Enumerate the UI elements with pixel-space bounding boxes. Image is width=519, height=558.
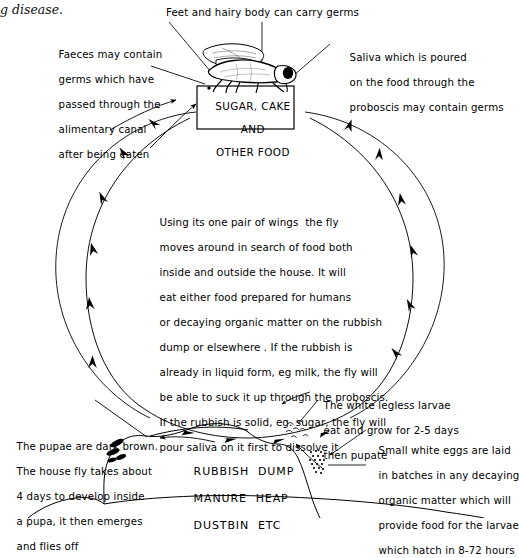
eggs-label-line-4: provide food for the larvae	[379, 520, 519, 531]
eggs-label: Small white eggs are laid in batches in …	[365, 432, 519, 558]
faeces-label-line-2: germs which have	[59, 74, 155, 85]
saliva-label-line-3: proboscis may contain germs	[350, 102, 504, 113]
saliva-label-line-2: on the food through the	[350, 77, 475, 88]
pupae-label-line-4: a pupa, it then emerges	[17, 516, 143, 527]
faeces-label-line-5: after being eaten	[59, 149, 150, 160]
eggs-label-line-5: which hatch in 8-72 hours	[379, 545, 515, 556]
feet-and-body-label: Feet and hairy body can carry germs	[166, 7, 359, 20]
pupae-label-line-3: 4 days to develop inside	[17, 491, 145, 502]
paragraph-line-5: or decaying organic matter on the rubbis…	[160, 316, 383, 328]
food-box-text: SUGAR, CAKE AND OTHER FOOD	[199, 89, 292, 170]
pupae-label: The pupae are dark brown. The house fly …	[3, 428, 158, 558]
paragraph-line-1: Using its one pair of wings the fly	[160, 216, 339, 228]
paragraph-line-4: eat either food prepared for humans	[160, 291, 352, 303]
eggs-label-line-3: organic matter which will	[379, 495, 511, 506]
saliva-label-line-1: Saliva which is poured	[350, 52, 467, 63]
rubbish-dump-line-3: DUSTBIN ETC	[194, 519, 282, 532]
callout-leader-lines	[151, 22, 330, 84]
pupae-label-line-1: The pupae are dark brown.	[17, 441, 159, 452]
food-box-line-2: AND	[241, 123, 265, 135]
rubbish-dump-line-2: MANURE HEAP	[194, 492, 289, 505]
pupae-label-line-5: and flies off	[17, 541, 79, 552]
paragraph-line-2: moves around in search of food both	[160, 241, 353, 253]
rubbish-dump-label: RUBBISH DUMP MANURE HEAP DUSTBIN ETC	[176, 452, 294, 546]
rubbish-dump-line-1: RUBBISH DUMP	[194, 465, 295, 478]
housefly-illustration	[203, 44, 296, 93]
faeces-label-line-3: passed through the	[59, 99, 161, 110]
paragraph-line-3: inside and outside the house. It will	[160, 266, 346, 278]
food-box-line-3: OTHER FOOD	[216, 146, 290, 158]
pupae-label-line-2: The house fly takes about	[17, 466, 153, 477]
saliva-label: Saliva which is poured on the food throu…	[336, 39, 504, 127]
eggs-label-line-2: in batches in any decaying	[379, 470, 519, 481]
paragraph-line-7: already in liquid form, eg milk, the fly…	[160, 366, 378, 378]
paragraph-line-6: dump or elsewhere . If the rubbish is	[160, 341, 353, 353]
faeces-label-line-4: alimentary canal	[59, 124, 147, 135]
faeces-label: Faeces may contain germs which have pass…	[45, 36, 162, 175]
page-caption-partial: g disease.	[0, 2, 63, 17]
faeces-label-line-1: Faeces may contain	[59, 49, 163, 60]
eggs-label-line-1: Small white eggs are laid	[379, 445, 511, 456]
food-box-line-1: SUGAR, CAKE	[215, 100, 290, 112]
larvae-label-line-1: The white legless larvae	[324, 400, 451, 411]
